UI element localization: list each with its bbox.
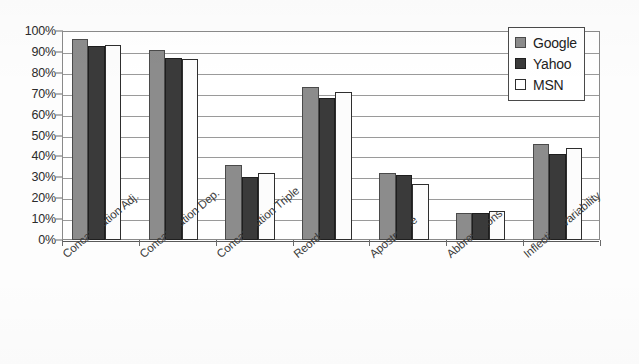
- legend-item-label: Google: [533, 35, 577, 51]
- x-axis-tick: [216, 240, 217, 246]
- y-axis-tick-label: 60%: [32, 108, 56, 122]
- legend-item-google[interactable]: Google: [515, 32, 577, 53]
- bar-google: [533, 144, 550, 240]
- bar-group: [302, 31, 352, 240]
- y-axis-tick-label: 10%: [32, 212, 56, 226]
- bar-yahoo: [88, 46, 105, 240]
- bar-google: [302, 87, 319, 240]
- bar-group: [379, 31, 429, 240]
- legend-swatch-icon: [515, 37, 526, 48]
- bar-msn: [335, 92, 352, 240]
- x-axis-tick: [523, 240, 524, 246]
- x-axis-tick: [600, 240, 601, 246]
- y-axis-labels: 0%10%20%30%40%50%60%70%80%90%100%: [0, 31, 56, 240]
- legend-item-yahoo[interactable]: Yahoo: [515, 53, 577, 74]
- x-axis-tick: [293, 240, 294, 246]
- bar-yahoo: [165, 58, 182, 240]
- x-axis-tick: [62, 240, 63, 246]
- legend-item-label: MSN: [533, 77, 564, 93]
- y-axis-tick-label: 90%: [32, 45, 56, 59]
- x-axis-tick: [446, 240, 447, 246]
- bar-yahoo: [319, 98, 336, 240]
- bar-msn: [412, 184, 429, 240]
- bar-google: [72, 39, 89, 240]
- y-axis-tick-label: 0%: [38, 233, 56, 247]
- y-axis-tick-label: 50%: [32, 129, 56, 143]
- y-axis-tick-label: 20%: [32, 191, 56, 205]
- legend-swatch-icon: [515, 79, 526, 90]
- y-axis-tick-label: 100%: [25, 24, 56, 38]
- legend-swatch-icon: [515, 58, 526, 69]
- x-axis-tick: [369, 240, 370, 246]
- y-axis-tick-label: 40%: [32, 149, 56, 163]
- legend-item-label: Yahoo: [533, 56, 571, 72]
- x-axis-tick: [139, 240, 140, 246]
- bar-google: [149, 50, 166, 240]
- legend-item-msn[interactable]: MSN: [515, 74, 577, 95]
- chart-screenshot: 0%10%20%30%40%50%60%70%80%90%100% Concat…: [0, 0, 639, 364]
- x-axis-labels: Concatenation Adj.Concatenation Dep.Conc…: [0, 248, 639, 364]
- chart-legend: GoogleYahooMSN: [508, 27, 585, 101]
- y-axis-tick-label: 70%: [32, 87, 56, 101]
- y-axis-tick-label: 80%: [32, 66, 56, 80]
- y-axis-tick-label: 30%: [32, 170, 56, 184]
